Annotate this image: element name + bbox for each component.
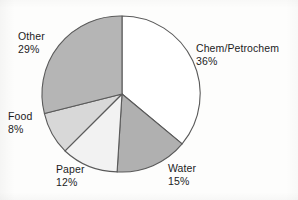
- pie-label-other-value: 29%: [18, 43, 45, 56]
- pie-label-water-value: 15%: [168, 175, 196, 188]
- pie-label-chem-petrochem-name: Chem/Petrochem: [196, 42, 279, 55]
- pie-label-paper-name: Paper: [56, 163, 85, 176]
- pie-label-food-name: Food: [8, 110, 32, 123]
- pie-label-paper-value: 12%: [56, 176, 85, 189]
- pie-label-water: Water 15%: [168, 162, 196, 188]
- pie-label-other: Other 29%: [18, 30, 45, 56]
- pie-label-food-value: 8%: [8, 123, 32, 136]
- pie-label-chem-petrochem-value: 36%: [196, 55, 279, 68]
- pie-label-water-name: Water: [168, 162, 196, 175]
- pie-label-paper: Paper 12%: [56, 163, 85, 189]
- pie-label-food: Food 8%: [8, 110, 32, 136]
- pie-label-other-name: Other: [18, 30, 45, 43]
- pie-chart-figure: Chem/Petrochem 36% Water 15% Paper 12% F…: [0, 0, 298, 200]
- pie-label-chem-petrochem: Chem/Petrochem 36%: [196, 42, 279, 68]
